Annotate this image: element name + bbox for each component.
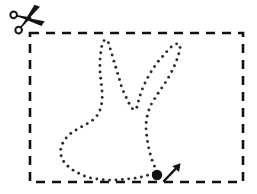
trace-dot [139, 93, 142, 96]
trace-dot [99, 58, 102, 61]
trace-dot [98, 64, 101, 67]
trace-dot [122, 90, 125, 93]
trace-dot [165, 50, 168, 53]
trace-dot [72, 169, 75, 172]
worksheet-graphic [0, 0, 257, 194]
trace-dot [89, 176, 92, 179]
trace-dot [157, 60, 160, 63]
trace-dot [112, 60, 115, 63]
trace-dot [120, 84, 123, 87]
trace-dot [116, 72, 119, 75]
trace-dot [147, 109, 150, 112]
trace-dot [115, 179, 118, 182]
trace-dot [157, 92, 160, 95]
trace-dot [151, 159, 154, 162]
trace-dot [67, 165, 70, 168]
trace-dot [146, 76, 149, 79]
trace-dot [150, 70, 153, 73]
trace-dot [60, 154, 63, 157]
trace-dot [145, 127, 148, 130]
trace-dot [153, 65, 156, 68]
trace-dot [114, 66, 117, 69]
trace-dot [145, 121, 148, 124]
trace-dot [100, 102, 103, 105]
trace-dot [175, 58, 178, 61]
trace-dot [146, 174, 149, 177]
trace-dot [140, 176, 143, 179]
trace-dot [170, 46, 173, 49]
trace-dot [161, 55, 164, 58]
trace-dot [150, 103, 153, 106]
trace-dot [77, 172, 80, 175]
trace-dot [160, 86, 163, 89]
trace-dot [141, 87, 144, 90]
trace-dot [99, 51, 102, 54]
trace-dot [128, 102, 131, 105]
trace-dot [103, 39, 106, 42]
trace-dot [59, 148, 62, 151]
trace-dot [99, 108, 102, 111]
trace-dot [137, 100, 140, 103]
trace-dot [75, 128, 78, 131]
trace-dot [69, 132, 72, 135]
trace-dot [91, 119, 94, 122]
trace-dot [144, 82, 147, 85]
trace-dot [175, 42, 178, 45]
trace-dot [96, 114, 99, 117]
trace-dot [147, 146, 150, 149]
trace-dot [153, 165, 156, 168]
worksheet-canvas: Dashed rectangular cut-out border with a… [0, 0, 257, 194]
trace-dot [107, 41, 110, 44]
trace-dot [177, 52, 180, 55]
trace-dot [170, 70, 173, 73]
trace-dot [80, 125, 83, 128]
trace-dot [83, 175, 86, 178]
trace-dot [100, 83, 103, 86]
trace-dot [111, 54, 114, 57]
trace-dot [127, 177, 130, 180]
trace-dot [108, 179, 111, 182]
trace-dot [167, 76, 170, 79]
trace-dot [100, 45, 103, 48]
trace-dot [153, 97, 156, 100]
trace-dot [99, 77, 102, 80]
trace-dot [101, 90, 104, 93]
trace-dot [135, 106, 138, 109]
trace-dot [121, 178, 124, 181]
trace-dot [131, 107, 134, 110]
trace-dot [86, 122, 89, 125]
trace-dot [146, 115, 149, 118]
trace-dot [134, 177, 137, 180]
trace-dot [173, 64, 176, 67]
trace-dot [125, 96, 128, 99]
trace-dot [101, 96, 104, 99]
trace-dot [118, 78, 121, 81]
trace-dot [109, 47, 112, 50]
trace-dot [99, 70, 102, 73]
trace-dot [145, 134, 148, 137]
trace-dot [62, 160, 65, 163]
trace-dot [102, 178, 105, 181]
trace-dot [179, 46, 182, 49]
trace-dot [65, 136, 68, 139]
trace-dot [95, 178, 98, 181]
trace-dot [164, 81, 167, 84]
trace-dot [61, 142, 64, 145]
trace-dot [146, 140, 149, 143]
trace-dot [149, 153, 152, 156]
start-point-dot-icon [152, 170, 162, 180]
page-background [0, 0, 257, 194]
